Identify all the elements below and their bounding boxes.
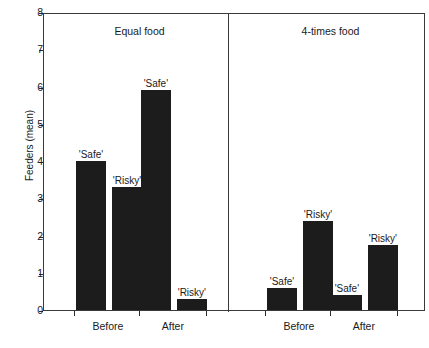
y-tick-label: 2 (29, 231, 43, 242)
y-tick-label: 3 (29, 193, 43, 204)
bar-value-label: 'Safe' (320, 283, 374, 294)
bar-value-label: 'Safe' (64, 149, 118, 160)
x-tick-label: After (324, 320, 404, 332)
y-tick-label: 6 (29, 82, 43, 93)
x-tick-mark (397, 311, 398, 316)
bar-chart-figure: Feeders (mean) 012345678 Equal food'Safe… (0, 0, 429, 348)
panel-title: 4-times food (235, 25, 426, 37)
bar (303, 221, 333, 310)
y-tick-label: 1 (29, 268, 43, 279)
bar (332, 295, 362, 310)
y-tick-label: 7 (29, 44, 43, 55)
x-tick-mark (139, 311, 140, 316)
x-tick-mark (265, 311, 266, 316)
bar-value-label: 'Safe' (129, 78, 183, 89)
bar-value-label: 'Risky' (165, 287, 219, 298)
bar-value-label: 'Risky' (291, 209, 345, 220)
bar (141, 90, 171, 310)
x-tick-label: After (133, 320, 213, 332)
panel-title: Equal food (44, 25, 235, 37)
bar (368, 245, 398, 310)
bar-value-label: 'Safe' (255, 276, 309, 287)
x-tick-mark (330, 311, 331, 316)
x-tick-mark (206, 311, 207, 316)
bar (112, 187, 142, 310)
y-tick-label: 4 (29, 156, 43, 167)
y-axis-ticks: 012345678 (24, 0, 43, 348)
y-tick-label: 5 (29, 119, 43, 130)
plot-area: Equal food'Safe''Risky''Safe''Risky'4-ti… (43, 13, 425, 311)
bar (177, 299, 207, 310)
panel-divider (228, 14, 229, 312)
y-tick-label: 8 (29, 7, 43, 18)
y-tick-label: 0 (29, 305, 43, 316)
x-tick-mark (74, 311, 75, 316)
bar-value-label: 'Risky' (356, 233, 410, 244)
bar (267, 288, 297, 310)
